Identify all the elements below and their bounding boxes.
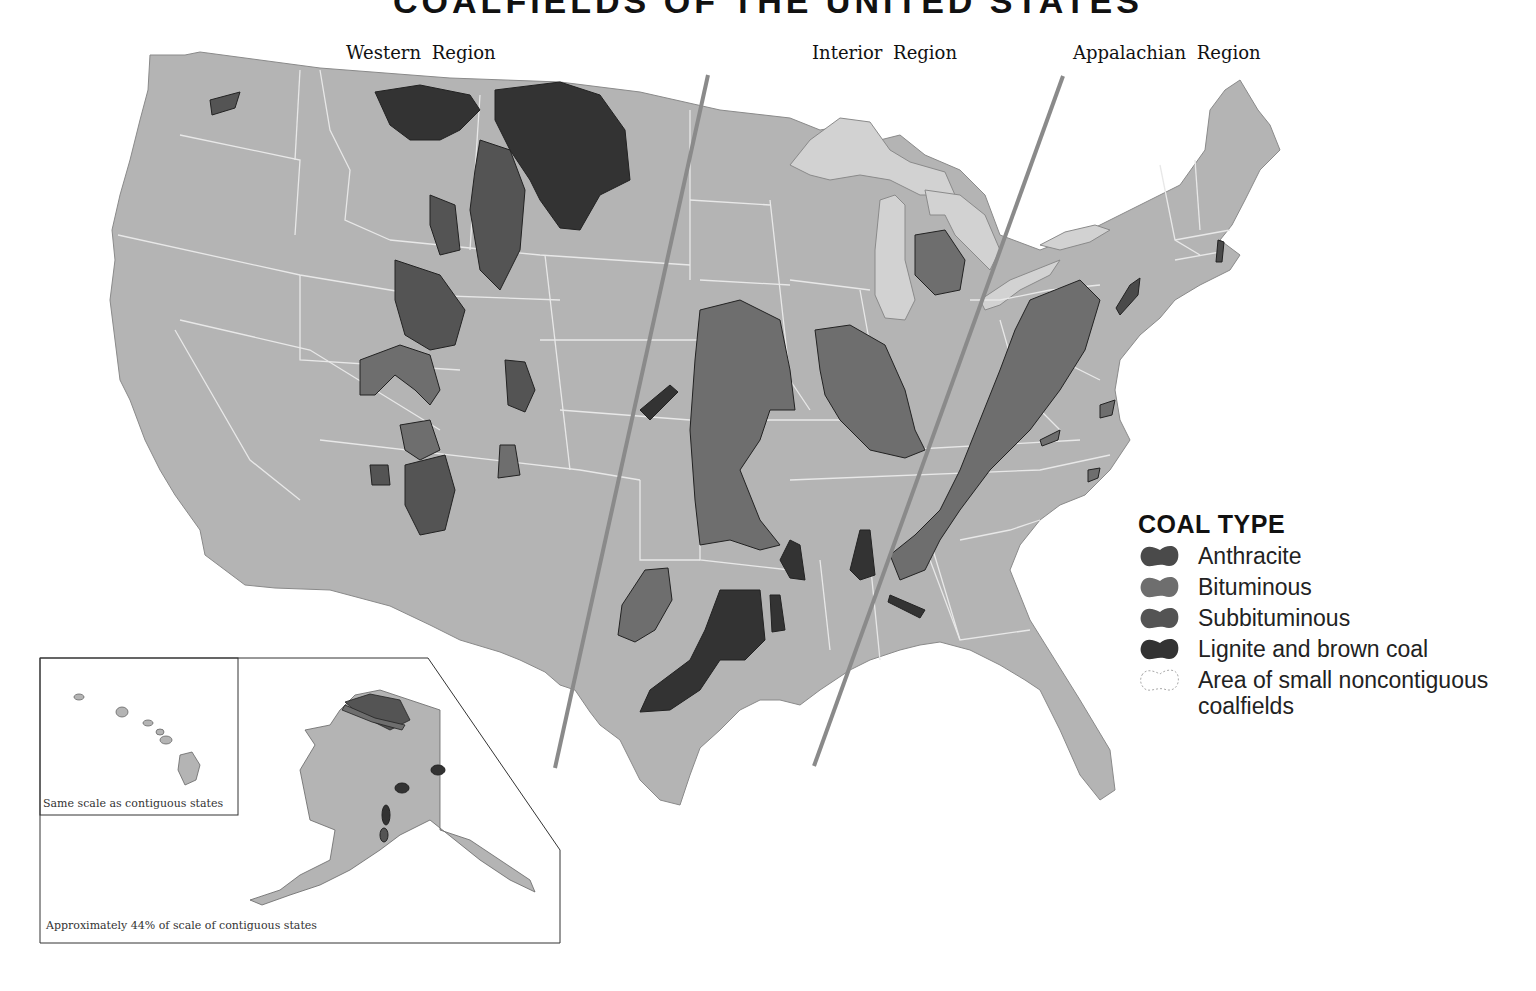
anthracite-swatch-icon: [1138, 543, 1182, 571]
legend-item-bituminous: Bituminous: [1138, 574, 1536, 605]
alaska-coalfield-central: [395, 783, 409, 793]
legend-label: Bituminous: [1198, 574, 1312, 600]
legend-label: Anthracite: [1198, 543, 1302, 569]
hawaii-inset-caption: Same scale as contiguous states: [43, 797, 223, 810]
region-label-western: Western Region: [346, 42, 496, 63]
legend-item-subbituminous: Subbituminous: [1138, 605, 1536, 636]
legend-item-lignite: Lignite and brown coal: [1138, 636, 1536, 667]
legend-label: Area of small noncontiguous coalfields: [1198, 667, 1536, 719]
legend-item-noncontiguous: Area of small noncontiguous coalfields: [1138, 667, 1536, 719]
region-label-interior: Interior Region: [812, 42, 957, 63]
legend-label: Subbituminous: [1198, 605, 1350, 631]
alaska-coalfield-kenai: [380, 828, 388, 842]
bituminous-swatch-icon: [1138, 574, 1182, 602]
legend-title: COAL TYPE: [1138, 510, 1536, 539]
coalfield-subbituminous-small-1: [370, 465, 390, 485]
us-coalfields-map: [0, 0, 1536, 991]
hawaii-inset-frame: [40, 658, 238, 815]
legend-label: Lignite and brown coal: [1198, 636, 1428, 662]
lignite-swatch-icon: [1138, 636, 1182, 664]
alaska-coalfield-cook-inlet: [382, 805, 390, 825]
alaska: [250, 690, 535, 905]
dotted-outline-swatch-icon: [1138, 667, 1182, 695]
alaska-inset-caption: Approximately 44% of scale of contiguous…: [46, 919, 317, 932]
region-label-appalachian: Appalachian Region: [1073, 42, 1261, 63]
hawaii-islands: [74, 694, 200, 785]
legend: COAL TYPE Anthracite Bituminous Subbitum…: [1138, 510, 1536, 719]
coalfield-bituminous-ri: [1216, 240, 1224, 262]
alaska-coalfield-interior: [431, 765, 445, 775]
legend-item-anthracite: Anthracite: [1138, 543, 1536, 574]
subbituminous-swatch-icon: [1138, 605, 1182, 633]
